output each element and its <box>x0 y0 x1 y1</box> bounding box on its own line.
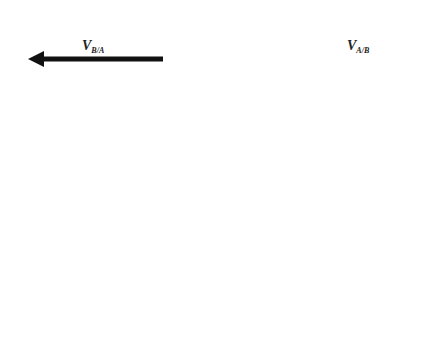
v-a-b-label: VA/B <box>347 38 370 55</box>
relative-motion-diagram: VB/A VA/B <box>0 0 441 344</box>
v-b-a-label: VB/A <box>82 38 105 55</box>
svg-text:VB/A: VB/A <box>82 38 105 55</box>
svg-text:VA/B: VA/B <box>347 38 370 55</box>
